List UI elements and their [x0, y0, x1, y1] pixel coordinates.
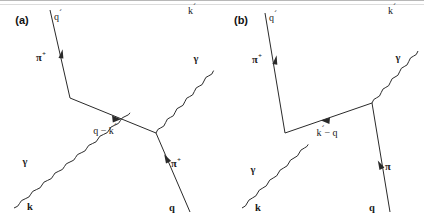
- panel-a-incoming-photon-label: γ: [23, 157, 28, 168]
- panel-b-incoming-pion-momentum-prime: ´: [274, 9, 277, 19]
- panel-a-tag: (a): [15, 15, 28, 26]
- panel-b-incoming-pion-momentum-label: q´: [269, 13, 277, 23]
- panel-a-outgoing-photon-momentum-prime: ´: [193, 2, 196, 12]
- panel-a-outgoing-photon-wave: [156, 71, 214, 133]
- panel-a-propagator-text: q − k: [93, 125, 114, 136]
- diagram-canvas: [0, 0, 424, 220]
- panel-a-incoming-pion-label: π+: [36, 53, 46, 64]
- panel-b-outgoing-pion-momentum-label: q: [369, 203, 375, 214]
- panel-b-incoming-pion-line: [265, 13, 285, 133]
- panel-b-outgoing-pion-symbol: π: [385, 161, 391, 172]
- panel-b-incoming-pion-charge: +: [258, 52, 262, 60]
- feynman-diagram-figure: (a) q´ π+ γ k q − k´ k´ γ π+ q (b) q´ π+…: [0, 0, 424, 220]
- panel-a-incoming-pion-line: [50, 10, 70, 98]
- panel-b-incoming-photon-wave: [242, 144, 308, 208]
- panel-b-incoming-photon-momentum-label: k: [255, 203, 261, 214]
- panel-b-outgoing-pion-label: π: [385, 162, 391, 173]
- panel-b-outgoing-photon-momentum-label: k´: [388, 6, 396, 16]
- panel-a-outgoing-pion-charge: +: [177, 156, 181, 164]
- panel-b-outgoing-photon-momentum-prime: ´: [393, 2, 396, 12]
- panel-b-propagator-label: k´− q: [316, 128, 337, 138]
- panel-a-propagator-prime: ´: [114, 122, 117, 132]
- panel-a-incoming-pion-momentum-label: q´: [54, 12, 62, 22]
- panel-b-tag: (b): [234, 15, 248, 26]
- panel-b-outgoing-photon-label: γ: [396, 53, 401, 64]
- panel-a-propagator-label: q − k´: [93, 126, 117, 136]
- panel-a-incoming-photon-momentum-label: k: [27, 202, 33, 213]
- panel-a-incoming-pion-momentum-prime: ´: [59, 8, 62, 18]
- panel-b-outgoing-pion-line: [372, 103, 390, 212]
- panel-b-propagator-rest: − q: [324, 127, 337, 138]
- panel-b-incoming-photon-label: γ: [251, 165, 256, 176]
- panel-a-outgoing-pion-label: π+: [171, 159, 181, 170]
- panel-b-incoming-pion-label: π+: [252, 55, 262, 66]
- panel-a-outgoing-pion-line: [156, 133, 190, 212]
- panel-a-outgoing-photon-label: γ: [194, 54, 199, 65]
- panel-a-outgoing-pion-momentum-label: q: [169, 203, 175, 214]
- panel-a-outgoing-photon-momentum-label: k´: [188, 6, 196, 16]
- panel-a-incoming-pion-charge: +: [42, 50, 46, 58]
